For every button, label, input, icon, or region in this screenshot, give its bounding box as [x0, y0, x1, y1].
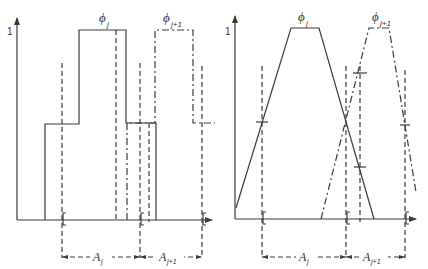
right-y-tick-1: 1	[225, 26, 231, 37]
left-interval-j1-label: A j+1	[156, 250, 184, 266]
svg-text:j: j	[305, 19, 308, 28]
svg-text:A: A	[158, 250, 167, 264]
svg-text:j+1: j+1	[166, 258, 177, 266]
svg-text:j: j	[106, 20, 109, 29]
svg-text:j: j	[306, 258, 309, 266]
phi-j-trapezoid-curve	[236, 28, 374, 219]
phi-j1-trapezoid-curve	[321, 28, 416, 219]
svg-text:ϕ: ϕ	[99, 10, 106, 25]
left-bracket-j	[63, 213, 66, 225]
left-phi-j-label: ϕ j	[99, 10, 109, 29]
svg-text:ϕ: ϕ	[372, 9, 379, 24]
left-bracket-end	[203, 213, 206, 225]
right-interval-j1-label: A j+1	[360, 250, 388, 266]
svg-text:A: A	[92, 250, 101, 264]
right-bracket-end	[406, 212, 409, 224]
right-phi-j-label: ϕ j	[298, 9, 308, 28]
left-node-lines	[62, 30, 202, 258]
svg-text:j+1: j+1	[170, 20, 182, 29]
left-bracket-j1	[141, 213, 144, 225]
right-bracket-j1	[347, 212, 350, 224]
basis-function-diagram: 1 ϕ j ϕ j+1 A j A j+1	[0, 0, 428, 269]
right-panel	[235, 16, 416, 258]
right-node-lines	[262, 66, 405, 258]
left-interval-j-label: A j	[90, 250, 112, 266]
right-bracket-j	[263, 212, 266, 224]
svg-text:j+1: j+1	[370, 258, 381, 266]
right-phi-j1-label: ϕ j+1	[372, 9, 391, 28]
svg-text:ϕ: ϕ	[298, 9, 305, 24]
svg-text:A: A	[298, 250, 307, 264]
left-y-tick-1: 1	[7, 26, 13, 37]
left-phi-j1-label: ϕ j+1	[163, 10, 182, 29]
left-panel	[17, 18, 215, 258]
right-interval-j-label: A j	[296, 250, 318, 266]
svg-text:A: A	[362, 250, 371, 264]
svg-text:j+1: j+1	[379, 19, 391, 28]
svg-text:j: j	[100, 258, 103, 266]
svg-text:ϕ: ϕ	[163, 10, 170, 25]
